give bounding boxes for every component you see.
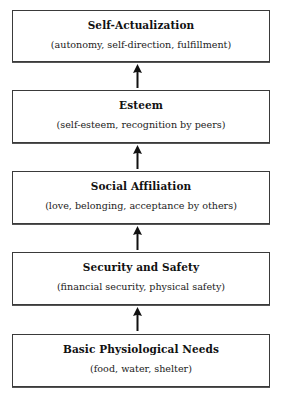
level-esteem: Esteem (self-esteem, recognition by peer…	[12, 90, 270, 143]
level-basic-physiological-needs: Basic Physiological Needs (food, water, …	[12, 334, 270, 387]
level-social-affiliation: Social Affiliation (love, belonging, acc…	[12, 171, 270, 224]
level-description: (financial security, physical safety)	[13, 281, 269, 293]
up-arrow-icon	[133, 307, 142, 331]
level-title: Basic Physiological Needs	[13, 343, 269, 356]
level-description: (food, water, shelter)	[13, 363, 269, 375]
level-description: (love, belonging, acceptance by others)	[13, 200, 269, 212]
level-description: (autonomy, self-direction, fulfillment)	[13, 39, 269, 51]
level-title: Esteem	[13, 99, 269, 112]
up-arrow-icon	[133, 145, 142, 169]
up-arrow-icon	[133, 64, 142, 88]
level-security-safety: Security and Safety (financial security,…	[12, 252, 270, 305]
level-title: Self-Actualization	[13, 19, 269, 32]
level-title: Social Affiliation	[13, 180, 269, 193]
up-arrow-icon	[133, 226, 142, 250]
level-title: Security and Safety	[13, 261, 269, 274]
level-description: (self-esteem, recognition by peers)	[13, 119, 269, 131]
level-self-actualization: Self-Actualization (autonomy, self-direc…	[12, 10, 270, 62]
